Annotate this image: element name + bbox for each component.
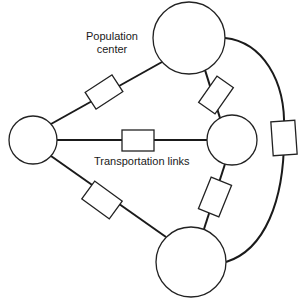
link-box-left-right [122,130,154,151]
transportation-links-label: Transportation links [94,155,190,168]
population-center-top [153,2,225,74]
population-center-label: Population center [78,30,146,56]
link-box-right-bottom [198,177,231,217]
population-center-left [9,116,57,164]
link-box-top-right [199,76,234,114]
population-center-right [207,115,257,165]
population-center-bottom [156,227,226,297]
population-center-label-line1: Population [78,30,146,43]
link-boxes [82,75,297,219]
network-diagram [0,0,306,303]
link-box-arc [271,120,297,156]
link-box-left-top [85,75,123,109]
link-box-left-bottom [82,181,122,219]
population-center-label-line2: center [78,43,146,56]
